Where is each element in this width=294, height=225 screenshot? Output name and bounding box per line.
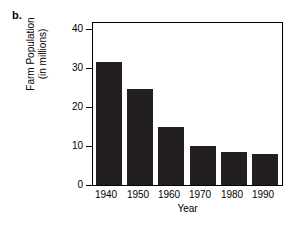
- y-tick-mark-0: [86, 185, 93, 186]
- y-tick-label-30: 30: [57, 63, 83, 73]
- bar-1960: [158, 127, 184, 185]
- y-axis-title: Farm Population (in millions): [22, 0, 52, 113]
- x-tick-label-1990: 1990: [242, 189, 284, 200]
- y-tick-mark-10: [86, 146, 93, 147]
- y-tick-label-20: 20: [57, 102, 83, 112]
- bars-group: [93, 23, 281, 185]
- bar-1980: [221, 152, 247, 185]
- y-axis-title-line2: (in millions): [37, 29, 49, 80]
- x-axis-title: Year: [92, 203, 283, 214]
- bar-1970: [190, 146, 216, 185]
- y-tick-mark-40: [86, 29, 93, 30]
- y-tick-label-40: 40: [57, 24, 83, 34]
- y-tick-label-0: 0: [57, 180, 83, 190]
- y-axis-title-line1: Farm Population: [25, 17, 37, 90]
- y-tick-mark-30: [86, 68, 93, 69]
- bar-1950: [127, 89, 153, 185]
- y-tick-label-10: 10: [57, 141, 83, 151]
- bar-1940: [96, 62, 122, 185]
- bar-chart-figure: b. Farm Population (in millions) 40 30 2…: [0, 0, 294, 225]
- panel-label: b.: [12, 10, 22, 21]
- y-tick-mark-20: [86, 107, 93, 108]
- bar-1990: [252, 154, 278, 185]
